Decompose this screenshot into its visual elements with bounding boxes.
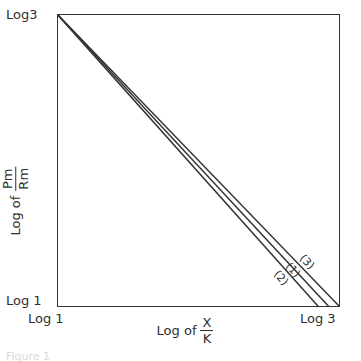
y-axis-tick-top: Log3 [6,8,38,21]
chart-line-2 [57,14,319,307]
chart-line-3 [57,14,340,307]
x-axis-title-fraction: X K [200,316,213,346]
x-axis-title-numerator: X [200,316,213,331]
x-axis-tick-right: Log 3 [300,312,336,325]
x-axis-title-denominator: K [201,331,214,345]
figure-container: Log3 Log 1 Log 1 Log 3 Log of Pm Rm Log … [0,0,361,361]
y-axis-title-fraction: Pm Rm [1,166,31,192]
y-axis-title-denominator: Rm [17,166,31,192]
plot-lines [57,14,340,307]
y-axis-title-prefix: Log of [9,196,24,236]
y-axis-title: Log of Pm Rm [1,141,31,261]
x-axis-tick-left: Log 1 [28,312,64,325]
x-axis-title: Log of X K [110,316,260,346]
y-axis-title-numerator: Pm [1,167,16,192]
figure-caption: Figure 1 [6,350,50,361]
x-axis-title-prefix: Log of [157,323,197,338]
y-axis-tick-bottom: Log 1 [6,294,42,307]
